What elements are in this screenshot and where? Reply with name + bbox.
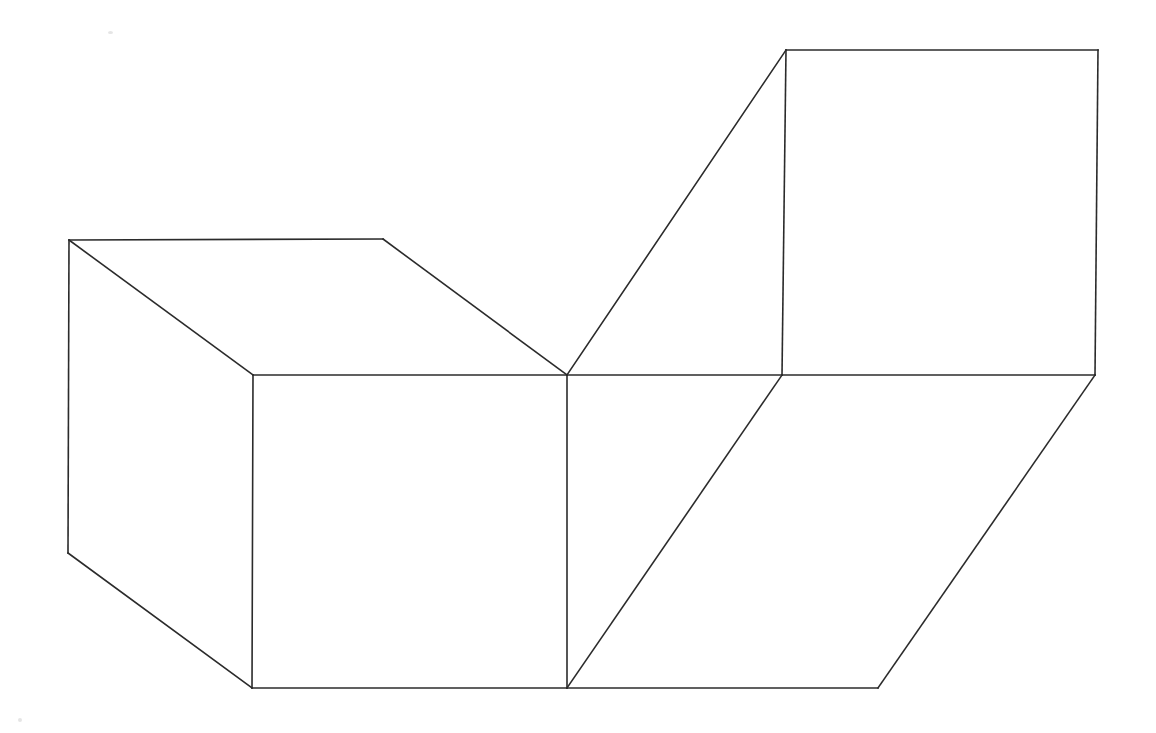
edge-connector-upper-slant [567, 50, 786, 375]
line-drawing-figure: Isometric line drawing of two rectangula… [0, 0, 1156, 733]
face-left-block-front [252, 375, 567, 688]
edge-left-back-vertical [68, 240, 69, 553]
face-right-block-front [782, 50, 1098, 375]
edge-left-top-back [69, 239, 383, 240]
scan-speck-bottom-icon [18, 718, 22, 722]
edge-left-front-vertical [252, 375, 253, 688]
scan-speck-top-icon [108, 31, 113, 34]
drawing-canvas: Isometric line drawing of two rectangula… [0, 0, 1156, 733]
